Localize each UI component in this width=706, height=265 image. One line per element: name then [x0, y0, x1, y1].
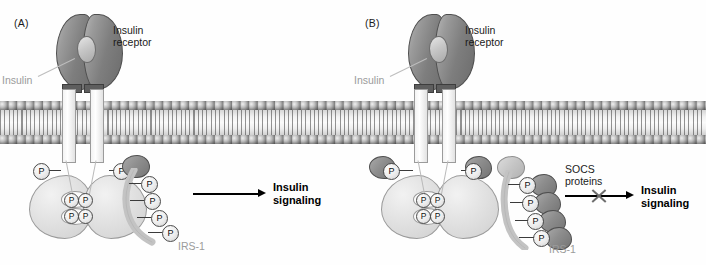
irs1-phospho-leader-3-a — [137, 217, 151, 218]
phospho-group: P — [383, 163, 400, 180]
insulin-signaling-label-line1-a: Insulin — [273, 181, 308, 194]
phospho-group: P — [465, 163, 482, 180]
phospho-group: P — [144, 193, 161, 210]
insulin-signaling-label-line1-b: Insulin — [641, 184, 676, 197]
kinase-domain-right-b — [435, 175, 499, 239]
membrane-outer-leaflet-b — [353, 101, 706, 110]
phospho-group: P — [527, 213, 544, 230]
irs1-phospho-leader-4-a — [148, 232, 162, 233]
plasma-membrane-b — [353, 101, 706, 144]
panel-a: (A) P P P P P P — [0, 0, 353, 265]
panel-a-label: (A) — [14, 17, 29, 29]
transmembrane-domain-left-a — [62, 89, 76, 163]
transmembrane-domain-left-b — [414, 89, 428, 163]
irs1-phospho-leader-2-a — [130, 200, 144, 201]
phospho-group: P — [430, 209, 445, 224]
socs-proteins-label-line2-b: proteins — [565, 175, 602, 188]
irs1-phospho-leader-1-a — [129, 183, 141, 184]
insulin-signaling-label-line2-a: signaling — [273, 194, 321, 207]
insulin-receptor-label-line1-a: Insulin — [113, 24, 143, 37]
phospho-group: P — [151, 210, 168, 227]
irs1-phospho-leader-4-b — [519, 237, 534, 238]
phospho-group: P — [141, 176, 158, 193]
transmembrane-domain-right-a — [90, 89, 104, 163]
plasma-membrane-a — [0, 101, 353, 144]
phospho-group: P — [519, 177, 536, 194]
panel-b: (B) P P P P P P — [353, 0, 706, 265]
phospho-group: P — [33, 163, 50, 180]
insulin-label-b: Insulin — [354, 74, 384, 87]
membrane-inner-leaflet-a — [0, 135, 353, 144]
insulin-receptor-label-line2-b: receptor — [465, 36, 504, 49]
insulin-receptor-label-line2-a: receptor — [113, 36, 152, 49]
phospho-group: P — [78, 193, 93, 208]
phospho-group: P — [533, 230, 550, 247]
irs1-label-b: IRS-1 — [549, 243, 576, 256]
signaling-arrow-head-b — [626, 191, 634, 199]
phospho-group: P — [64, 193, 79, 208]
phospho-group: P — [522, 195, 539, 212]
insulin-label-a: Insulin — [2, 74, 32, 87]
socs-proteins-label-line1-b: SOCS — [565, 163, 595, 176]
phospho-group: P — [162, 225, 179, 242]
insulin-receptor-label-line1-b: Insulin — [465, 24, 495, 37]
signaling-arrow-head-a — [258, 189, 266, 197]
phospho-group: P — [416, 193, 431, 208]
insulin-molecule-a — [77, 36, 96, 63]
phospho-group: P — [416, 209, 431, 224]
membrane-inner-leaflet-b — [353, 135, 706, 144]
phospho-group: P — [78, 209, 93, 224]
phospho-group: P — [64, 209, 79, 224]
transmembrane-domain-right-b — [442, 89, 456, 163]
membrane-outer-leaflet-a — [0, 101, 353, 110]
insulin-molecule-b — [429, 36, 448, 63]
phospho-leader-left-b — [398, 170, 413, 171]
blocked-signal-cross-icon-b — [590, 187, 608, 205]
phospho-group: P — [430, 193, 445, 208]
signaling-arrow-line-a — [193, 193, 260, 195]
insulin-signaling-label-line2-b: signaling — [641, 197, 689, 210]
insulin-signaling-figure: (A) P P P P P P — [0, 0, 706, 265]
panel-b-label: (B) — [365, 17, 380, 29]
irs1-label-a: IRS-1 — [178, 240, 205, 253]
